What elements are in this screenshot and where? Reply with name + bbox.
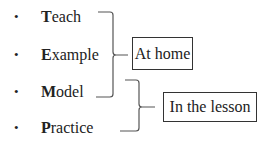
brace-at-home-icon: [96, 12, 128, 97]
brace-in-lesson-icon: [120, 80, 155, 131]
group-label-at-home: At home: [132, 37, 193, 70]
group-label-in-the-lesson: In the lesson: [163, 92, 257, 122]
brackets: [0, 0, 268, 145]
